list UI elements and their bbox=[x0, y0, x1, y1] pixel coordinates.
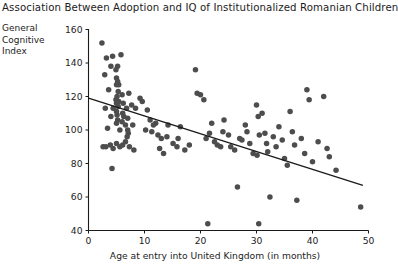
data-point bbox=[108, 114, 114, 120]
data-point bbox=[182, 147, 188, 153]
x-tick-label: 10 bbox=[139, 235, 151, 246]
data-point bbox=[119, 92, 125, 98]
data-point bbox=[116, 82, 122, 88]
y-tick-label: 100 bbox=[65, 124, 83, 135]
data-point bbox=[264, 141, 270, 147]
data-point bbox=[218, 144, 224, 150]
data-point bbox=[114, 121, 120, 127]
data-point bbox=[126, 90, 132, 96]
data-point bbox=[117, 127, 123, 133]
data-point bbox=[276, 124, 282, 129]
data-point bbox=[149, 129, 155, 135]
data-point bbox=[205, 221, 211, 227]
data-point bbox=[209, 121, 215, 127]
data-point bbox=[254, 102, 260, 108]
regression-trendline bbox=[89, 98, 363, 185]
data-point bbox=[164, 134, 170, 140]
data-point bbox=[226, 132, 232, 138]
x-tick-label: 40 bbox=[307, 235, 319, 246]
x-axis-label: Age at entry into United Kingdom (in mon… bbox=[0, 250, 375, 261]
data-point bbox=[125, 116, 131, 122]
data-point bbox=[157, 146, 163, 152]
data-points-layer bbox=[99, 40, 363, 226]
data-point bbox=[287, 109, 293, 115]
data-point bbox=[294, 198, 300, 204]
data-point bbox=[118, 52, 124, 58]
data-point bbox=[187, 142, 193, 148]
data-point bbox=[310, 159, 316, 165]
x-tick-label: 50 bbox=[363, 235, 375, 246]
data-point bbox=[299, 136, 305, 142]
x-tick-label: 20 bbox=[195, 235, 207, 246]
data-point bbox=[304, 87, 310, 93]
data-point bbox=[120, 100, 126, 106]
data-point bbox=[285, 162, 291, 168]
data-point bbox=[109, 166, 115, 172]
data-point bbox=[193, 67, 199, 73]
data-point bbox=[232, 147, 238, 153]
data-point bbox=[198, 92, 204, 98]
data-point bbox=[108, 64, 114, 70]
data-point bbox=[280, 137, 286, 143]
axis-layer bbox=[89, 29, 369, 231]
data-point bbox=[123, 139, 128, 145]
data-point bbox=[306, 97, 312, 103]
data-point bbox=[175, 136, 181, 142]
y-tick-label: 80 bbox=[71, 158, 83, 169]
data-point bbox=[133, 105, 139, 111]
data-point bbox=[259, 111, 265, 117]
y-tick-labels: 406080100120140160 bbox=[65, 24, 89, 236]
data-point bbox=[315, 139, 321, 145]
data-point bbox=[256, 221, 262, 227]
data-point bbox=[174, 144, 180, 150]
data-point bbox=[159, 136, 165, 142]
data-point bbox=[292, 142, 298, 148]
data-point bbox=[124, 134, 130, 140]
data-point bbox=[123, 122, 128, 128]
data-point bbox=[321, 94, 327, 100]
data-point bbox=[106, 87, 112, 93]
x-tick-labels: 01020304050 bbox=[86, 231, 375, 246]
data-point bbox=[130, 122, 136, 128]
data-point bbox=[103, 105, 109, 111]
data-point bbox=[104, 55, 110, 61]
data-point bbox=[324, 146, 330, 152]
data-point bbox=[161, 151, 167, 157]
data-point bbox=[254, 152, 260, 158]
data-point bbox=[99, 40, 105, 46]
data-point bbox=[145, 107, 151, 113]
data-point bbox=[267, 194, 273, 200]
data-point bbox=[333, 167, 339, 173]
y-tick-label: 120 bbox=[65, 91, 83, 102]
y-tick-label: 160 bbox=[65, 24, 83, 35]
data-point bbox=[290, 129, 296, 135]
data-point bbox=[243, 122, 249, 128]
data-point bbox=[244, 129, 250, 135]
data-point bbox=[235, 184, 241, 190]
x-tick-label: 30 bbox=[251, 235, 263, 246]
data-point bbox=[239, 137, 245, 143]
data-point bbox=[140, 99, 146, 105]
data-point bbox=[201, 97, 207, 103]
data-point bbox=[302, 151, 308, 157]
data-point bbox=[143, 127, 149, 133]
data-point bbox=[220, 129, 226, 135]
data-point bbox=[265, 149, 271, 155]
data-point bbox=[273, 144, 279, 150]
data-point bbox=[110, 54, 116, 60]
data-point bbox=[327, 154, 333, 160]
x-axis-label-text: Age at entry into United Kingdom (in mon… bbox=[55, 250, 320, 261]
data-point bbox=[127, 144, 133, 150]
data-point bbox=[114, 112, 120, 118]
y-tick-label: 60 bbox=[71, 191, 83, 202]
data-point bbox=[113, 67, 119, 73]
data-point bbox=[271, 134, 277, 140]
data-point bbox=[358, 204, 364, 210]
y-tick-label: 40 bbox=[71, 225, 83, 236]
data-point bbox=[221, 117, 227, 123]
data-point bbox=[110, 146, 116, 152]
data-point bbox=[247, 141, 253, 147]
data-point bbox=[105, 126, 111, 132]
